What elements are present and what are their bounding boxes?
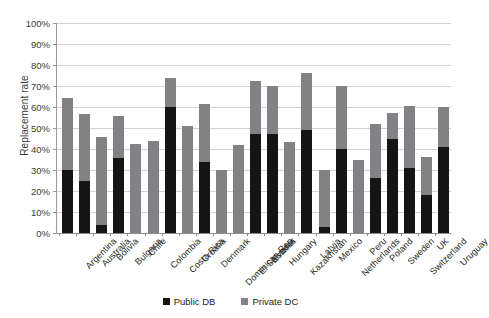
bar-group (130, 144, 141, 233)
bar-segment-public-db (79, 181, 90, 234)
bar-segment-private-dc (165, 78, 176, 107)
bar-group (182, 126, 193, 233)
bar-group (79, 114, 90, 233)
bar-group (370, 124, 381, 233)
bar-segment-private-dc (233, 145, 244, 233)
bar-segment-public-db (438, 147, 449, 233)
bar-group (165, 78, 176, 233)
bar-group (199, 104, 210, 233)
bar-segment-public-db (319, 227, 330, 233)
bar-segment-private-dc (353, 160, 364, 234)
legend-item: Private DC (241, 296, 298, 307)
bar-group (62, 98, 73, 233)
bar-segment-private-dc (148, 141, 159, 233)
bar-group (148, 141, 159, 233)
bar-segment-private-dc (79, 114, 90, 180)
bar-group (233, 145, 244, 233)
chart-legend: Public DBPrivate DC (0, 296, 461, 307)
bar-group (387, 113, 398, 233)
bar-segment-private-dc (96, 137, 107, 224)
bar-segment-public-db (165, 107, 176, 233)
bar-segment-private-dc (62, 98, 73, 170)
bar-group (267, 86, 278, 233)
legend-item: Public DB (163, 296, 216, 307)
bar-segment-public-db (267, 134, 278, 233)
y-tick-label: 30% (31, 165, 50, 176)
y-tick-label: 50% (31, 123, 50, 134)
bar-segment-public-db (113, 158, 124, 233)
y-axis-title: Replacement rate (19, 46, 30, 186)
bar-segment-public-db (387, 139, 398, 234)
bar-segment-private-dc (336, 86, 347, 149)
bar-group (96, 137, 107, 233)
bar-segment-private-dc (421, 157, 432, 195)
bar-segment-private-dc (284, 142, 295, 233)
y-tick-label: 80% (31, 60, 50, 71)
bars-layer (57, 23, 451, 233)
y-tick-label: 20% (31, 186, 50, 197)
y-tick-label: 10% (31, 207, 50, 218)
y-tick-label: 90% (31, 39, 50, 50)
bar-segment-private-dc (370, 124, 381, 179)
y-tick-label: 100% (26, 18, 50, 29)
y-tick-label: 0% (36, 228, 50, 239)
y-tick-mark (53, 233, 57, 234)
bar-segment-public-db (421, 195, 432, 233)
bar-group (319, 170, 330, 233)
bar-segment-private-dc (216, 170, 227, 233)
y-tick-label: 40% (31, 144, 50, 155)
legend-label: Public DB (174, 296, 216, 307)
bar-segment-public-db (62, 170, 73, 233)
bar-group (353, 160, 364, 234)
bar-group (113, 116, 124, 233)
bar-segment-private-dc (113, 116, 124, 158)
bar-segment-public-db (96, 225, 107, 233)
y-tick-label: 70% (31, 81, 50, 92)
y-tick-label: 60% (31, 102, 50, 113)
legend-swatch-icon (241, 298, 248, 305)
bar-group (421, 157, 432, 233)
bar-segment-public-db (370, 178, 381, 233)
bar-segment-public-db (301, 130, 312, 233)
bar-group (438, 107, 449, 233)
bar-segment-private-dc (438, 107, 449, 147)
bar-segment-private-dc (319, 170, 330, 227)
legend-label: Private DC (252, 296, 298, 307)
bar-segment-public-db (250, 134, 261, 233)
bar-segment-private-dc (250, 81, 261, 135)
bar-segment-private-dc (267, 86, 278, 134)
bar-segment-public-db (199, 162, 210, 233)
x-axis-label: Chile (146, 236, 168, 258)
bar-group (301, 73, 312, 233)
bar-group (250, 81, 261, 233)
bar-group (284, 142, 295, 233)
bar-segment-private-dc (199, 104, 210, 162)
x-axis-labels: ArgentinaAustraliaBoliviaBulgariaChileCo… (57, 236, 461, 296)
plot-area: 100%90%80%70%60%50%40%30%20%10%0% (57, 23, 451, 233)
bar-segment-private-dc (387, 113, 398, 138)
bar-group (404, 106, 415, 233)
bar-segment-private-dc (301, 73, 312, 130)
bar-segment-private-dc (130, 144, 141, 233)
bar-segment-public-db (404, 168, 415, 233)
bar-segment-public-db (336, 149, 347, 233)
bar-group (216, 170, 227, 233)
bar-segment-private-dc (182, 126, 193, 233)
x-axis-line (56, 233, 451, 234)
bar-segment-private-dc (404, 106, 415, 168)
bar-group (336, 86, 347, 233)
legend-swatch-icon (163, 298, 170, 305)
